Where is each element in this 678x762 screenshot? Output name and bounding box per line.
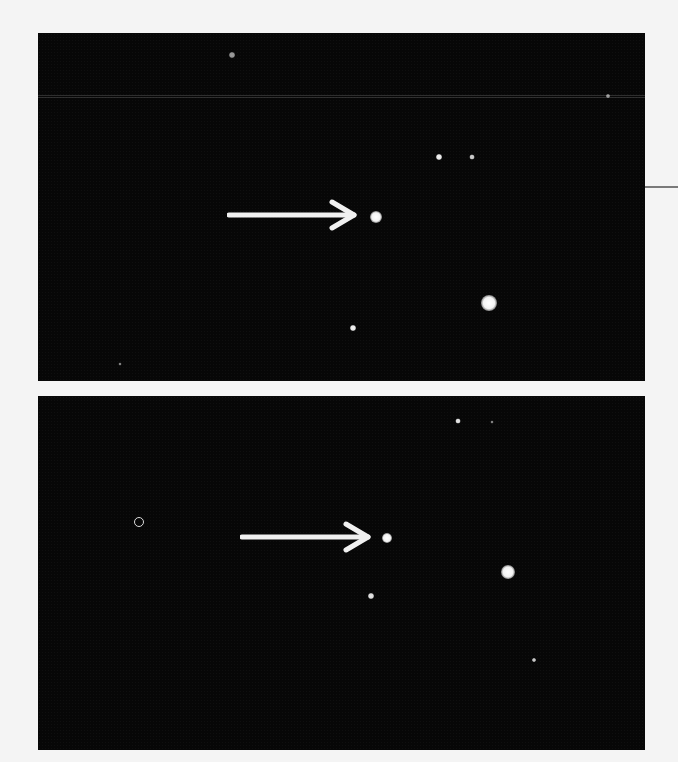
star bbox=[481, 295, 497, 311]
top-panel bbox=[38, 33, 645, 381]
star bbox=[350, 325, 356, 331]
star bbox=[436, 154, 442, 160]
star bbox=[119, 363, 122, 366]
target-star bbox=[382, 533, 392, 543]
star bbox=[501, 565, 515, 579]
star bbox=[491, 421, 494, 424]
star bbox=[532, 658, 536, 662]
edge-pointer-line bbox=[645, 186, 678, 188]
bottom-panel bbox=[38, 396, 645, 750]
arrow-right-icon bbox=[227, 197, 358, 233]
star bbox=[229, 52, 235, 58]
ring-marker bbox=[134, 517, 144, 527]
scan-streak bbox=[38, 95, 645, 96]
star bbox=[606, 94, 610, 98]
star bbox=[368, 593, 374, 599]
star bbox=[456, 419, 461, 424]
target-star bbox=[370, 211, 382, 223]
arrow-right-icon bbox=[240, 519, 372, 555]
star bbox=[470, 155, 475, 160]
scan-streak bbox=[38, 97, 645, 98]
